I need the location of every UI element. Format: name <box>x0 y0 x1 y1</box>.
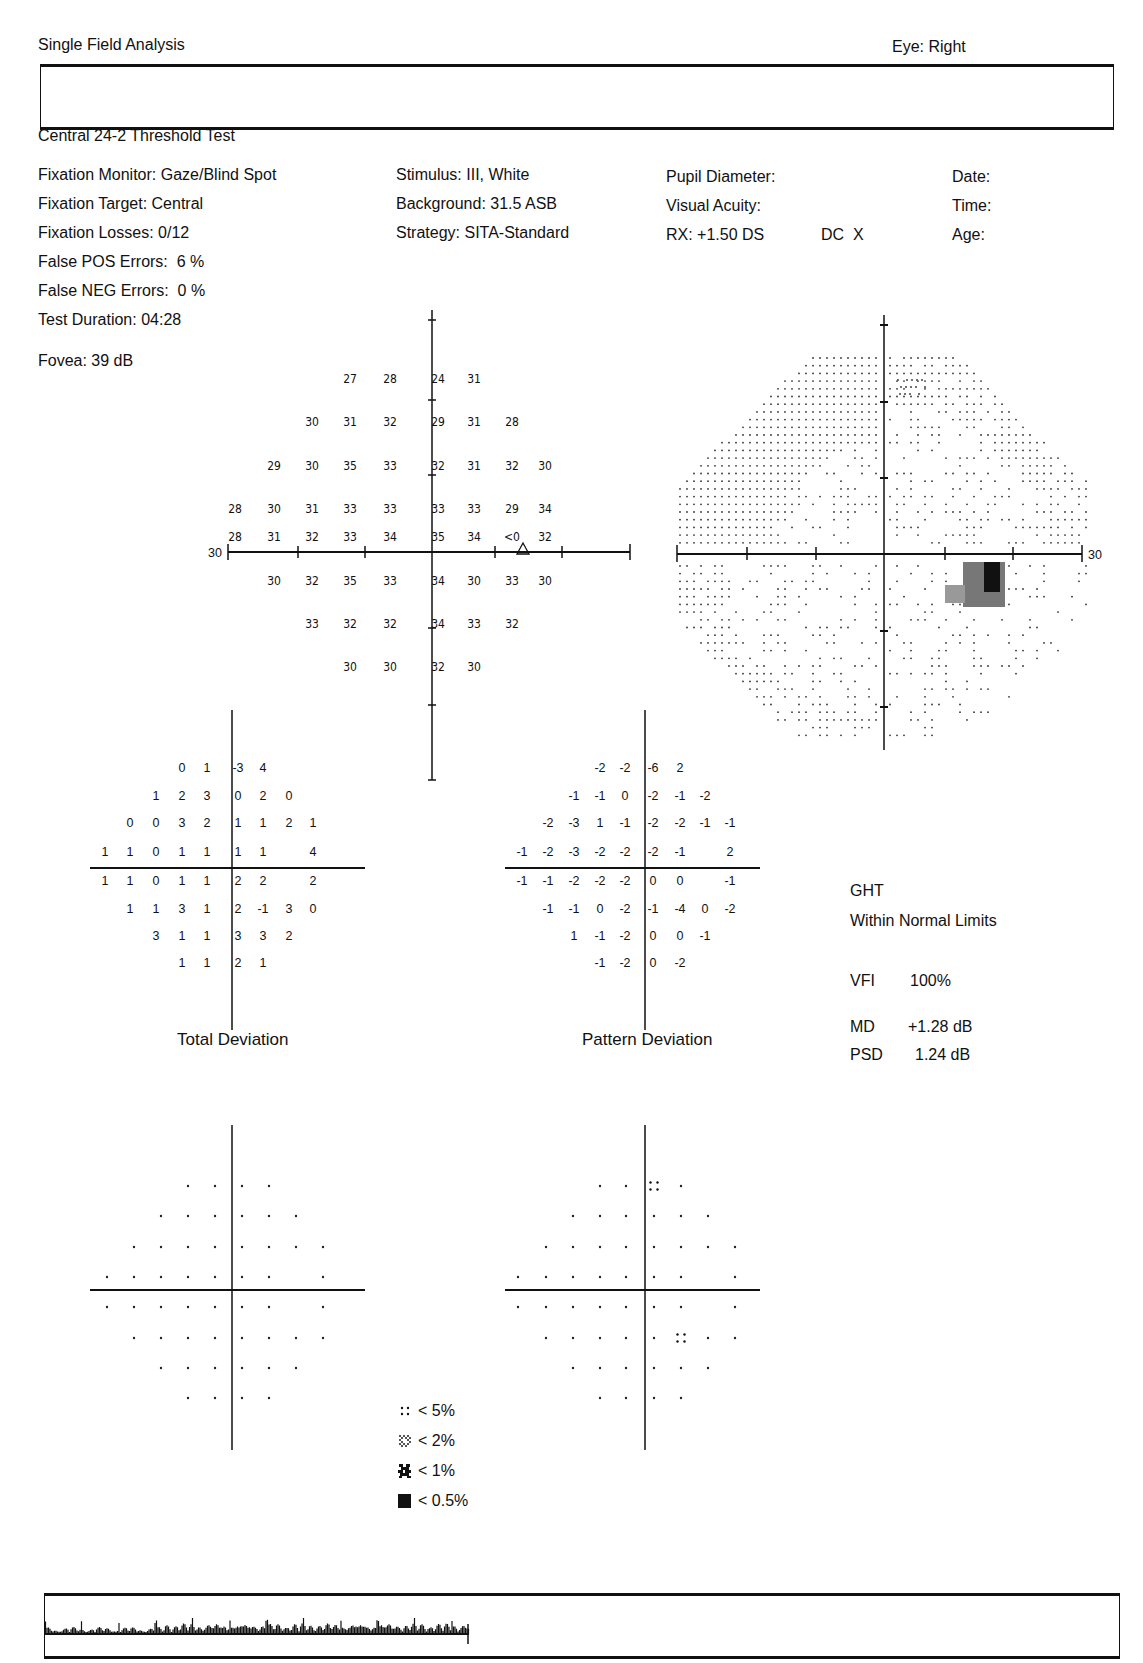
field-value: 2 <box>179 789 186 803</box>
field-value: 3 <box>153 929 160 943</box>
field-value: 34 <box>383 530 397 544</box>
total-deviation-title: Total Deviation <box>177 1030 289 1050</box>
dots-4-icon <box>398 1404 412 1418</box>
field-value: 30 <box>538 574 552 588</box>
field-value: -4 <box>674 902 685 916</box>
vfi-label: VFI <box>850 972 875 990</box>
field-value: 3 <box>260 929 267 943</box>
field-value: -2 <box>724 902 735 916</box>
false-neg-errors: False NEG Errors: 0 % <box>38 282 205 300</box>
false-pos-errors: False POS Errors: 6 % <box>38 253 204 271</box>
field-value: -2 <box>619 874 630 888</box>
field-value: 29 <box>505 502 519 516</box>
field-value: 27 <box>343 372 357 386</box>
field-value: -1 <box>619 816 630 830</box>
solid-square-icon <box>398 1494 412 1508</box>
field-value: 28 <box>505 415 519 429</box>
field-value: 0 <box>650 956 657 970</box>
field-value: -1 <box>699 816 710 830</box>
fixation-target: Fixation Target: Central <box>38 195 203 213</box>
field-value: 32 <box>343 617 357 631</box>
md-label: MD <box>850 1018 875 1036</box>
field-value: 2 <box>235 874 242 888</box>
field-value: 0 <box>310 902 317 916</box>
field-value: 32 <box>383 617 397 631</box>
ght-label: GHT <box>850 882 884 900</box>
field-value: 29 <box>431 415 445 429</box>
field-value: -1 <box>516 874 527 888</box>
field-value: 3 <box>204 789 211 803</box>
field-value: 1 <box>179 956 186 970</box>
field-value: 35 <box>343 574 357 588</box>
field-value: 33 <box>383 574 397 588</box>
field-value: 33 <box>431 502 445 516</box>
field-value: -3 <box>232 761 243 775</box>
fovea: Fovea: 39 dB <box>38 352 133 370</box>
field-value: 0 <box>153 874 160 888</box>
threshold-values: 2728243130313229312829303533323132302830… <box>228 372 552 674</box>
field-value: -2 <box>647 816 658 830</box>
field-value: 0 <box>127 816 134 830</box>
grayscale-plot: 30 <box>640 300 1140 760</box>
field-value: 0 <box>597 902 604 916</box>
field-value: -1 <box>594 789 605 803</box>
field-value: -2 <box>674 816 685 830</box>
field-value: 1 <box>571 929 578 943</box>
field-value: 1 <box>204 956 211 970</box>
fixation-losses: Fixation Losses: 0/12 <box>38 224 189 242</box>
field-value: -2 <box>594 761 605 775</box>
field-value: 30 <box>467 660 481 674</box>
gaze-tracking-trace <box>44 1618 504 1648</box>
report-title: Single Field Analysis <box>38 36 185 54</box>
axis-label-30-right: 30 <box>1088 548 1102 562</box>
field-value: -1 <box>516 845 527 859</box>
field-value: -1 <box>542 874 553 888</box>
field-value: -2 <box>619 845 630 859</box>
field-value: 1 <box>204 902 211 916</box>
field-value: 2 <box>727 845 734 859</box>
field-value: 33 <box>467 617 481 631</box>
strategy: Strategy: SITA-Standard <box>396 224 569 242</box>
background: Background: 31.5 ASB <box>396 195 557 213</box>
field-value: -2 <box>619 929 630 943</box>
field-value: -1 <box>542 902 553 916</box>
field-value: 1 <box>127 874 134 888</box>
field-value: 30 <box>383 660 397 674</box>
field-value: 2 <box>235 956 242 970</box>
field-value: 32 <box>305 574 319 588</box>
eye-label: Eye: Right <box>892 38 966 56</box>
legend-item-05: < 0.5% <box>398 1492 468 1510</box>
md-value: +1.28 dB <box>908 1018 973 1036</box>
field-value: 31 <box>305 502 319 516</box>
field-value: 30 <box>267 574 281 588</box>
field-value: 1 <box>204 874 211 888</box>
test-duration: Test Duration: 04:28 <box>38 311 181 329</box>
field-value: -2 <box>568 874 579 888</box>
checker-light-icon <box>398 1434 412 1448</box>
field-value: 2 <box>677 761 684 775</box>
field-value: 34 <box>538 502 552 516</box>
field-value: 35 <box>343 459 357 473</box>
field-value: -2 <box>619 902 630 916</box>
field-value: 29 <box>267 459 281 473</box>
field-value: <0 <box>504 530 520 544</box>
field-value: 30 <box>305 415 319 429</box>
fixation-monitor: Fixation Monitor: Gaze/Blind Spot <box>38 166 276 184</box>
field-value: 34 <box>467 530 481 544</box>
field-value: -3 <box>568 816 579 830</box>
field-value: -2 <box>619 761 630 775</box>
field-value: 1 <box>260 845 267 859</box>
field-value: -6 <box>647 761 658 775</box>
field-value: 0 <box>235 789 242 803</box>
field-value: 33 <box>343 530 357 544</box>
field-value: 32 <box>431 660 445 674</box>
field-value: -3 <box>568 845 579 859</box>
field-value: -2 <box>619 956 630 970</box>
field-value: 3 <box>286 902 293 916</box>
field-value: 1 <box>204 761 211 775</box>
field-value: 3 <box>179 816 186 830</box>
field-value: 1 <box>235 845 242 859</box>
field-value: 4 <box>260 761 267 775</box>
legend-item-2: < 2% <box>398 1432 455 1450</box>
field-value: 1 <box>597 816 604 830</box>
